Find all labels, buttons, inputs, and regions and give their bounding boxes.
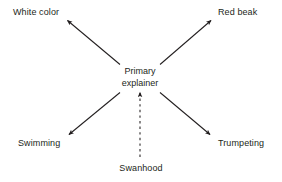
edge-center-to-trumpeting <box>160 93 210 135</box>
node-swanhood: Swanhood <box>111 163 171 174</box>
primary-explainer-line1: Primary <box>106 66 174 78</box>
edge-center-to-white-color <box>68 21 121 65</box>
diagram-canvas: Primary explainer White color Red beak S… <box>0 0 282 182</box>
primary-explainer-line2: explainer <box>106 78 174 90</box>
node-white-color: White color <box>13 7 59 18</box>
node-primary-explainer: Primary explainer <box>106 66 174 89</box>
node-red-beak: Red beak <box>218 7 257 18</box>
arrow-layer <box>0 0 282 182</box>
edge-center-to-swimming <box>69 93 120 135</box>
edge-center-to-red-beak <box>160 21 211 65</box>
node-trumpeting: Trumpeting <box>218 138 264 149</box>
node-swimming: Swimming <box>18 138 60 149</box>
